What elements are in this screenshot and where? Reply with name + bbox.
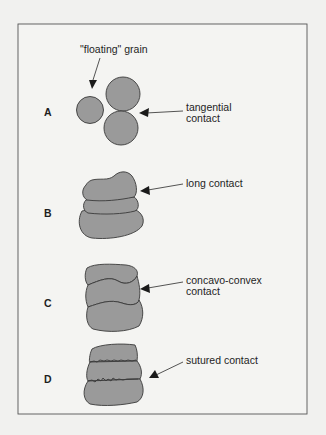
figure-frame [18, 24, 307, 414]
long-contact-label: long contact [186, 177, 243, 189]
grain-d-middle [87, 361, 142, 381]
panel-b-letter: B [44, 207, 52, 219]
grain-top [106, 77, 140, 111]
floating-grain [77, 97, 104, 124]
grain-d-top [89, 344, 137, 362]
grain-c-bottom [87, 300, 143, 331]
panel-a-letter: A [44, 106, 52, 118]
concavo-convex-label-2: contact [186, 285, 220, 297]
grain-contact-diagram: A "floating" grain tangential contact B … [0, 0, 326, 435]
panel-d-letter: D [44, 373, 52, 385]
panel-c-letter: C [44, 297, 52, 309]
floating-grain-label: "floating" grain [80, 43, 148, 55]
grain-bottom [104, 111, 138, 145]
grain-d-bottom [84, 379, 143, 405]
tangential-label-2: contact [186, 112, 220, 124]
sutured-contact-label: sutured contact [186, 354, 258, 366]
